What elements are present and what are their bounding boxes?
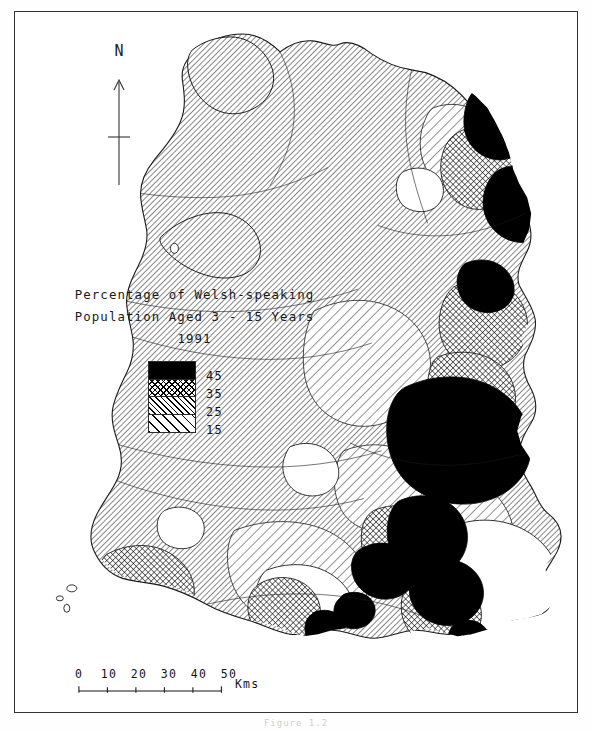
scale-rule-icon: [77, 685, 229, 694]
legend-swatch-15: [149, 415, 195, 433]
class-45-northeast-block: [483, 165, 560, 242]
legend-label-15: 15: [206, 421, 252, 439]
map-legend: 45 35 25 15: [148, 361, 260, 433]
scale-tick-30: 30: [161, 667, 177, 681]
scale-tick-40: 40: [191, 667, 207, 681]
north-arrow: N: [97, 42, 141, 187]
north-arrow-icon: [97, 42, 141, 187]
legend-swatch-45: [149, 362, 195, 380]
legend-swatch-35: [149, 380, 195, 398]
figure-caption: Figure 1.2: [0, 718, 592, 731]
class-45-pembroke-south: [100, 587, 193, 661]
class-45-valleys-core-2: [409, 559, 483, 625]
scale-tick-20: 20: [131, 667, 147, 681]
class-45-north-coast: [464, 85, 532, 160]
title-line-2: Population Aged 3 - 15 Years: [67, 306, 322, 328]
scale-tick-10: 10: [101, 667, 117, 681]
blank-pocket-coast: [157, 507, 204, 549]
scale-bar: 0 10 20 30 40 50 Kms: [77, 667, 277, 701]
blank-pocket-ne: [396, 168, 443, 212]
legend-label-35: 35: [206, 385, 252, 403]
title-line-1: Percentage of Welsh-speaking: [67, 284, 322, 306]
legend-label-45: 45: [206, 367, 252, 385]
class-45-small-patch-3: [448, 620, 488, 655]
north-arrow-label: N: [97, 42, 141, 60]
legend-label-25: 25: [206, 403, 252, 421]
legend-swatch-25: [149, 397, 195, 415]
legend-swatch-column: [148, 361, 196, 433]
figure-page: N Percentage of Welsh-speaking Populatio…: [0, 0, 592, 731]
scale-tick-0: 0: [75, 667, 83, 681]
title-line-3: 1991: [67, 328, 322, 350]
legend-label-column: 45 35 25 15: [206, 367, 252, 439]
map-title-block: Percentage of Welsh-speaking Population …: [67, 284, 322, 350]
map-frame: N Percentage of Welsh-speaking Populatio…: [14, 11, 578, 713]
class-45-small-patch-2: [305, 610, 345, 644]
scale-unit-label: Kms: [235, 677, 259, 691]
